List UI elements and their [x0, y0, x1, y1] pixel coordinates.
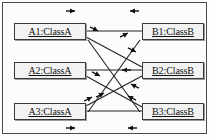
arrow-bottom-right-leftward [128, 125, 137, 130]
uml-object-diagram: A1:ClassA A2:ClassA A3:ClassA B1:ClassB … [0, 0, 215, 138]
link-a1-b2 [86, 37, 142, 67]
object-label-a2: A2:ClassA [29, 66, 72, 76]
link-lines-group [86, 31, 142, 112]
object-box-a1[interactable]: A1:ClassA [14, 23, 86, 40]
arrow-mid-leftward [122, 67, 131, 72]
object-box-b3[interactable]: B3:ClassB [142, 103, 204, 120]
object-box-b2[interactable]: B2:ClassB [142, 62, 204, 79]
object-label-b1: B1:ClassB [152, 27, 194, 37]
object-label-b3: B3:ClassB [152, 107, 194, 117]
object-label-b2: B2:ClassB [152, 66, 194, 76]
object-label-a3: A3:ClassA [29, 107, 72, 117]
arrow-top-left-rightward [66, 8, 75, 13]
object-box-a3[interactable]: A3:ClassA [14, 103, 86, 120]
arrow-a2-b3-downright [91, 69, 101, 78]
object-label-a1: A1:ClassA [29, 27, 72, 37]
arrow-a3-b1-upright [119, 31, 129, 40]
arrow-bottom-left-rightward [66, 125, 75, 130]
arrow-a1-b2-downright [89, 24, 99, 33]
object-box-a2[interactable]: A2:ClassA [14, 62, 86, 79]
arrow-top-right-leftward [130, 8, 139, 13]
arrow-b3-a1-upleft-outer [130, 82, 140, 91]
object-box-b1[interactable]: B1:ClassB [142, 23, 204, 40]
